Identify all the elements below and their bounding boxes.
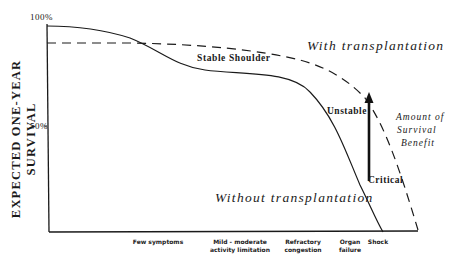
x-category-shock: Shock (360, 238, 396, 246)
y-tick-50: 50% (30, 122, 48, 131)
arrow-head-icon (365, 92, 374, 103)
x-category-mild-moderate: Mild - moderate activity limitation (205, 238, 275, 253)
benefit-label-line3: Benefit (401, 139, 435, 149)
benefit-label-line2: Survival (397, 126, 437, 136)
x-axis (49, 231, 418, 232)
y-axis-title: EXPECTED ONE-YEAR SURVIVAL (9, 39, 39, 239)
x-category-few-symptoms: Few symptoms (128, 238, 188, 246)
stable-shoulder-label: Stable Shoulder (197, 54, 271, 64)
unstable-label: Unstable (327, 107, 367, 117)
benefit-label-line1: Amount of (396, 113, 444, 123)
y-tick-100: 100% (30, 13, 53, 22)
x-category-refractory-congestion: Refractory congestion (278, 238, 328, 253)
without-transplantation-label: Without transplantation (215, 191, 374, 205)
with-transplantation-label: With transplantation (307, 39, 444, 53)
critical-label: Critical (368, 176, 403, 186)
